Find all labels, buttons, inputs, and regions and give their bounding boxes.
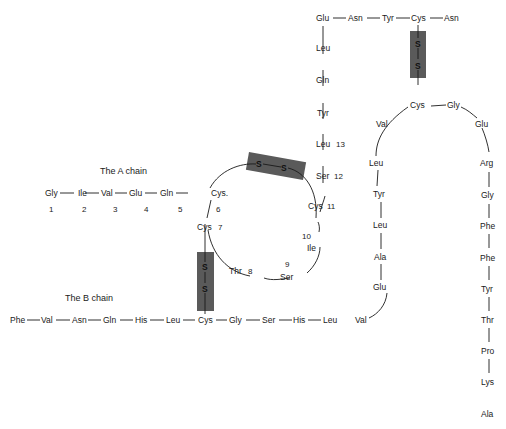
svg-text:12: 12 [334, 172, 343, 181]
b-residue-10: His [293, 315, 305, 325]
a-residue-6: Cys. [211, 188, 228, 198]
a-residue-17: Glu [316, 13, 330, 23]
a-residue-16: Leu [316, 43, 330, 53]
b-residue-21: Glu [475, 119, 489, 129]
b-residue-25: Phe [480, 253, 495, 263]
b-residue-9: Ser [262, 315, 275, 325]
svg-text:10: 10 [302, 232, 311, 241]
b-residue-23: Gly [481, 190, 495, 200]
b-residue-3: Asn [72, 315, 87, 325]
insulin-structure-diagram: The A chain The B chain Gly 1 Ile 2 Val … [0, 0, 506, 429]
a-chain-residues: Gly 1 Ile 2 Val 3 Glu 4 Gln 5 Cys. 6 Cys… [45, 13, 459, 282]
b-residue-24: Phe [480, 221, 495, 231]
a-residue-9: Ser [280, 272, 293, 282]
b-residue-16: Tyr [373, 189, 385, 199]
b-residue-27: Thr [481, 315, 494, 325]
svg-text:5: 5 [178, 205, 183, 214]
a-residue-14: Tyr [317, 108, 329, 118]
svg-text:S: S [281, 163, 287, 173]
b-residue-4: Gln [103, 315, 117, 325]
b-residue-29: Lys [481, 377, 494, 387]
b-chain-residues: Phe Val Asn Gln His Leu Cys Gly Ser His … [10, 100, 495, 419]
b-residue-22: Arg [480, 158, 494, 168]
sulfur-atoms: S S S S S S [202, 39, 421, 294]
svg-text:S: S [415, 61, 421, 71]
b-residue-28: Pro [481, 346, 495, 356]
svg-text:6: 6 [216, 205, 221, 214]
a-residue-8: Thr [229, 266, 242, 276]
a-residue-4: Glu [129, 188, 143, 198]
a-residue-13: Leu [316, 139, 330, 149]
svg-text:S: S [256, 159, 262, 169]
b-residue-15: Leu [373, 220, 387, 230]
b-residue-30: Ala [481, 409, 494, 419]
b-residue-11: Leu [323, 315, 337, 325]
a-residue-20: Cys [411, 13, 426, 23]
b-residue-7: Cys [198, 315, 213, 325]
a-residue-10: Ile [307, 243, 316, 253]
a-residue-2: Ile [78, 188, 87, 198]
svg-text:13: 13 [336, 140, 345, 149]
b-residue-14: Ala [374, 252, 387, 262]
svg-text:4: 4 [144, 205, 149, 214]
a-residue-11: Cys [308, 201, 323, 211]
svg-text:9: 9 [285, 260, 290, 269]
a-residue-15: Gln [316, 75, 330, 85]
b-residue-1: Phe [10, 315, 25, 325]
svg-text:11: 11 [327, 202, 336, 211]
b-residue-12: Val [355, 315, 367, 325]
a-chain-label: The A chain [100, 166, 147, 176]
b-residue-20: Gly [447, 100, 461, 110]
svg-text:S: S [415, 39, 421, 49]
b-residue-26: Tyr [481, 284, 493, 294]
a-residue-18: Asn [348, 13, 363, 23]
a-residue-7: Cys [197, 222, 212, 232]
svg-text:2: 2 [82, 205, 87, 214]
a-residue-3: Val [101, 188, 113, 198]
a-residue-5: Gln [160, 188, 174, 198]
b-residue-8: Gly [229, 315, 243, 325]
b-residue-18: Val [376, 119, 388, 129]
b-chain-label: The B chain [65, 293, 113, 303]
svg-text:8: 8 [248, 267, 253, 276]
svg-text:7: 7 [218, 223, 223, 232]
b-residue-13: Glu [373, 282, 387, 292]
a-residue-12: Ser [316, 171, 329, 181]
b-residue-17: Leu [369, 158, 383, 168]
b-residue-19: Cys [410, 100, 425, 110]
a-residue-1: Gly [45, 188, 59, 198]
disulfide-box-a7-b7 [197, 252, 214, 311]
b-residue-2: Val [41, 315, 53, 325]
svg-text:S: S [202, 262, 208, 272]
svg-text:S: S [202, 284, 208, 294]
svg-text:1: 1 [49, 205, 54, 214]
b-chain-bonds [27, 105, 489, 373]
a-residue-21: Asn [444, 13, 459, 23]
a-residue-19: Tyr [382, 13, 394, 23]
b-residue-6: Leu [166, 315, 180, 325]
diagram-canvas: The A chain The B chain Gly 1 Ile 2 Val … [0, 0, 506, 429]
svg-text:3: 3 [113, 205, 118, 214]
b-residue-5: His [135, 315, 147, 325]
